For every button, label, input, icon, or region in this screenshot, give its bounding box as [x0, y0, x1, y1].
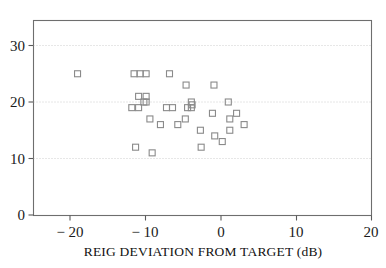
y-tick-label-0: 0: [18, 207, 26, 223]
y-tick-label-10: 10: [10, 151, 25, 167]
data-point-series: [75, 71, 248, 156]
y-axis-ticks: [29, 46, 34, 216]
x-tick-label-20: 20: [364, 224, 379, 240]
plot-canvas: 30 20 10 0 − 20 − 10 0 10 20 REIG DEVIAT…: [0, 0, 386, 268]
grid-lines: [34, 46, 372, 159]
data-point: [133, 144, 139, 150]
data-point: [147, 116, 153, 122]
x-axis-title: REIG DEVIATION FROM TARGET (dB): [84, 244, 323, 259]
y-tick-label-30: 30: [10, 38, 25, 54]
plot-frame: [34, 21, 372, 216]
data-point: [143, 93, 149, 99]
x-tick-label-10: 10: [289, 224, 304, 240]
data-point: [227, 116, 233, 122]
data-point: [234, 110, 240, 116]
data-point: [143, 71, 149, 77]
data-point: [183, 82, 189, 88]
data-point: [170, 105, 176, 111]
scatter-plot-figure: 30 20 10 0 − 20 − 10 0 10 20 REIG DEVIAT…: [0, 0, 386, 268]
x-tick-label--10: − 10: [131, 224, 158, 240]
data-point: [136, 93, 142, 99]
data-point: [212, 133, 218, 139]
data-point: [227, 127, 233, 133]
data-point: [131, 71, 137, 77]
x-tick-label-0: 0: [217, 224, 225, 240]
x-axis-tick-labels: − 20 − 10 0 10 20: [56, 224, 378, 240]
data-point: [219, 139, 225, 145]
data-point: [197, 127, 203, 133]
data-point: [175, 122, 181, 128]
data-point: [198, 144, 204, 150]
data-point: [149, 150, 155, 156]
x-axis-ticks: [70, 216, 372, 221]
data-point: [182, 116, 188, 122]
y-axis-tick-labels: 30 20 10 0: [10, 38, 25, 223]
data-point: [137, 71, 143, 77]
data-point: [157, 122, 163, 128]
data-point: [136, 105, 142, 111]
x-tick-label--20: − 20: [56, 224, 83, 240]
data-point: [167, 71, 173, 77]
data-point: [241, 122, 247, 128]
data-point: [211, 82, 217, 88]
data-point: [75, 71, 81, 77]
data-point: [163, 105, 169, 111]
y-tick-label-20: 20: [10, 94, 25, 110]
data-point: [129, 105, 135, 111]
data-point: [209, 110, 215, 116]
